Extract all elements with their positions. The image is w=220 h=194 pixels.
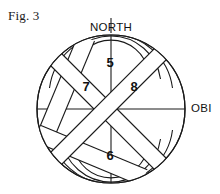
obi-label: OBI bbox=[191, 102, 212, 114]
numeral-7: 7 bbox=[82, 79, 89, 94]
numeral-5: 5 bbox=[106, 55, 113, 70]
figure-drawing: NORTH OBI 5 7 8 6 bbox=[0, 0, 220, 194]
numeral-6: 6 bbox=[106, 148, 113, 163]
figure-page: Fig. 3 bbox=[0, 0, 220, 194]
numeral-8: 8 bbox=[130, 79, 137, 94]
north-label: NORTH bbox=[90, 21, 132, 33]
